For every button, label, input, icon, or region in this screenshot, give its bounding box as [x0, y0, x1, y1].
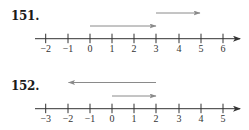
tick-label: −1 [63, 43, 74, 54]
axis-ticks: −3−2−1012345 [40, 104, 225, 125]
axis-ticks: −2−10123456 [40, 34, 225, 55]
number-line-151: −2−10123456 [35, 13, 240, 54]
number-line-152: −3−2−1012345 [35, 83, 240, 125]
tick-label: 2 [132, 43, 137, 54]
tick-label: 4 [199, 113, 204, 124]
tick-label: 1 [132, 113, 137, 124]
number-lines-figure: −2−10123456 −3−2−1012345 [0, 0, 249, 130]
tick-label: 0 [110, 113, 115, 124]
tick-label: −2 [63, 113, 74, 124]
tick-label: 6 [221, 43, 226, 54]
tick-label: 1 [110, 43, 115, 54]
tick-label: 4 [177, 43, 182, 54]
tick-label: −1 [85, 113, 96, 124]
tick-label: 2 [154, 113, 159, 124]
tick-label: −2 [40, 43, 51, 54]
tick-label: −3 [40, 113, 51, 124]
tick-label: 5 [199, 43, 204, 54]
tick-label: 5 [221, 113, 226, 124]
tick-label: 3 [177, 113, 182, 124]
tick-label: 3 [154, 43, 159, 54]
tick-label: 0 [88, 43, 93, 54]
